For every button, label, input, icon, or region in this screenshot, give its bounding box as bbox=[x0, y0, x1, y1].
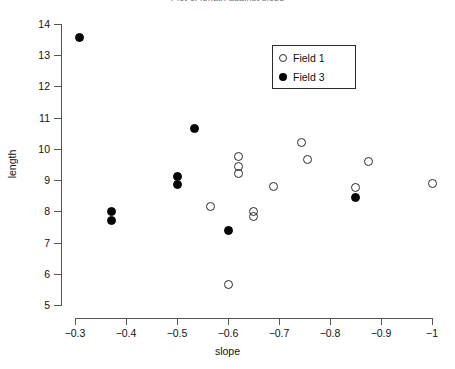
data-point-field-1 bbox=[249, 212, 258, 221]
data-point-field-1 bbox=[364, 157, 373, 166]
chart-legend: Field 1 Field 3 bbox=[272, 45, 356, 89]
x-axis-tick bbox=[228, 318, 229, 325]
y-axis-tick bbox=[54, 86, 61, 87]
data-point-field-1 bbox=[234, 152, 243, 161]
chart-title: Plot of length against slope bbox=[0, 0, 455, 1]
x-axis-tick bbox=[177, 318, 178, 325]
y-axis-tick bbox=[54, 149, 61, 150]
x-axis-tick bbox=[330, 318, 331, 325]
y-axis-tick bbox=[54, 118, 61, 119]
y-axis-tick bbox=[54, 243, 61, 244]
data-point-field-1 bbox=[428, 179, 437, 188]
y-axis-tick-label: 6 bbox=[0, 269, 50, 279]
y-axis-tick-label: 8 bbox=[0, 206, 50, 216]
x-axis-tick bbox=[126, 318, 127, 325]
legend-label: Field 3 bbox=[293, 72, 325, 83]
data-point-field-1 bbox=[224, 280, 233, 289]
data-point-field-1 bbox=[303, 155, 312, 164]
data-point-field-3 bbox=[75, 33, 84, 42]
open-circle-icon bbox=[273, 54, 293, 62]
x-axis-tick-label: −0.6 bbox=[206, 328, 250, 339]
y-axis-tick-label: 7 bbox=[0, 238, 50, 248]
y-axis-tick bbox=[54, 24, 61, 25]
x-axis-tick bbox=[381, 318, 382, 325]
y-axis-tick bbox=[54, 211, 61, 212]
y-axis-tick-label: 13 bbox=[0, 50, 50, 60]
data-point-field-3 bbox=[351, 193, 360, 202]
legend-label: Field 1 bbox=[293, 53, 325, 64]
x-axis-tick-label: −0.4 bbox=[104, 328, 148, 339]
data-point-field-1 bbox=[269, 182, 278, 191]
y-axis-tick-label: 12 bbox=[0, 81, 50, 91]
x-axis-line bbox=[75, 318, 433, 319]
x-axis-tick bbox=[432, 318, 433, 325]
data-point-field-1 bbox=[206, 202, 215, 211]
data-point-field-3 bbox=[224, 226, 233, 235]
filled-circle-icon bbox=[273, 73, 293, 81]
legend-entry-field-3: Field 3 bbox=[273, 68, 357, 86]
data-point-field-1 bbox=[297, 138, 306, 147]
data-point-field-3 bbox=[107, 207, 116, 216]
x-axis-tick bbox=[279, 318, 280, 325]
x-axis-tick-label: −0.9 bbox=[359, 328, 403, 339]
y-axis-tick bbox=[54, 274, 61, 275]
y-axis-tick bbox=[54, 180, 61, 181]
x-axis-tick bbox=[75, 318, 76, 325]
data-point-field-1 bbox=[234, 169, 243, 178]
y-axis-tick bbox=[54, 305, 61, 306]
data-point-field-3 bbox=[107, 216, 116, 225]
y-axis-line bbox=[61, 24, 62, 306]
data-point-field-1 bbox=[351, 183, 360, 192]
y-axis-tick bbox=[54, 55, 61, 56]
y-axis-label: length bbox=[6, 134, 18, 194]
x-axis-tick-label: −0.8 bbox=[308, 328, 352, 339]
y-axis-tick-label: 5 bbox=[0, 300, 50, 310]
x-axis-tick-label: −0.3 bbox=[53, 328, 97, 339]
x-axis-label: slope bbox=[0, 345, 455, 357]
x-axis-tick-label: −0.7 bbox=[257, 328, 301, 339]
data-point-field-3 bbox=[173, 180, 182, 189]
x-axis-tick-label: −0.5 bbox=[155, 328, 199, 339]
data-point-field-3 bbox=[190, 124, 199, 133]
x-axis-tick-label: −1 bbox=[410, 328, 454, 339]
legend-entry-field-1: Field 1 bbox=[273, 49, 357, 67]
y-axis-tick-label: 14 bbox=[0, 19, 50, 29]
scatter-chart: Plot of length against slope 56789101112… bbox=[0, 0, 455, 369]
y-axis-tick-label: 11 bbox=[0, 113, 50, 123]
